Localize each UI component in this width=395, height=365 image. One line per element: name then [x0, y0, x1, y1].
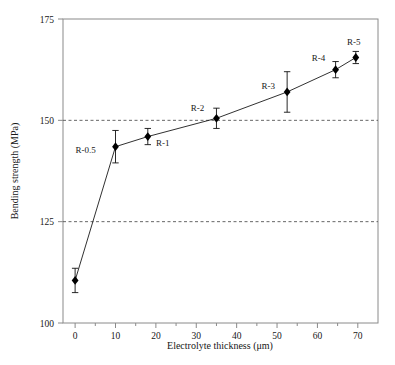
y-tick-label: 175 [40, 15, 55, 25]
x-tick-label: 60 [313, 331, 323, 341]
data-point-label: R-3 [261, 81, 275, 91]
x-tick-label: 10 [111, 331, 121, 341]
data-point-label: R-0.5 [75, 145, 96, 155]
y-tick-label: 125 [40, 217, 55, 227]
chart-background [0, 0, 395, 365]
x-axis-title: Electrolyte thickness (μm) [167, 340, 273, 352]
data-point-label: R-4 [312, 53, 326, 63]
y-tick-label: 150 [40, 116, 55, 126]
x-tick-label: 0 [73, 331, 78, 341]
data-point-label: R-1 [156, 138, 170, 148]
x-tick-label: 50 [272, 331, 282, 341]
chart-figure: 100125150175 010203040506070 R-0.5R-1R-2… [0, 0, 395, 365]
y-tick-label: 100 [40, 319, 55, 329]
data-point-label: R-5 [347, 37, 361, 47]
x-tick-label: 70 [353, 331, 363, 341]
data-point-label: R-2 [191, 103, 205, 113]
x-tick-label: 20 [151, 331, 161, 341]
y-axis-title: Bending strength (MPa) [9, 123, 21, 220]
bending-strength-scatter-chart: 100125150175 010203040506070 R-0.5R-1R-2… [0, 0, 395, 365]
